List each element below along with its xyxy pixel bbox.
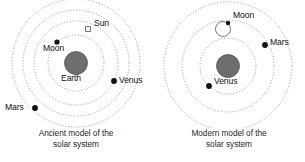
marker-sun-ancient	[86, 27, 91, 32]
panel-ancient-model: Moon Sun Venus Mars Earth Ancient model …	[0, 0, 152, 162]
label-mars-modern: Mars	[270, 38, 289, 47]
label-mars-ancient: Mars	[5, 103, 24, 112]
caption-ancient-line1: Ancient model of the	[0, 128, 152, 139]
label-moon-ancient: Moon	[43, 44, 64, 53]
solar-system-comparison-figure: Moon Sun Venus Mars Earth Ancient model …	[0, 0, 305, 162]
caption-ancient-line2: solar system	[0, 139, 152, 150]
marker-mars-ancient	[32, 105, 38, 111]
marker-venus-ancient	[111, 78, 117, 84]
label-venus-ancient: Venus	[119, 76, 142, 85]
label-moon-modern: Moon	[233, 11, 254, 20]
caption-modern-line2: solar system	[153, 139, 305, 150]
label-earth-ancient: Earth	[61, 74, 81, 83]
caption-modern-line1: Modern model of the	[153, 128, 305, 139]
caption-ancient-model: Ancient model of the solar system	[0, 128, 152, 150]
marker-moon-modern	[226, 21, 230, 25]
body-sun-modern	[217, 55, 240, 78]
label-venus-modern: Venus	[214, 77, 237, 86]
marker-venus-modern	[206, 83, 212, 89]
label-sun-ancient: Sun	[94, 19, 109, 28]
modern-model-drawing	[153, 0, 305, 128]
marker-mars-modern	[262, 42, 268, 48]
body-earth-ancient	[65, 52, 88, 75]
panel-modern-model: Moon Mars Venus Modern model of the sola…	[153, 0, 305, 162]
caption-modern-model: Modern model of the solar system	[153, 128, 305, 150]
